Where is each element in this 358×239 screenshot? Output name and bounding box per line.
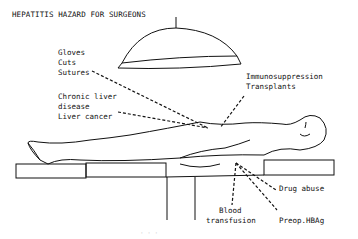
label-liver-cancer: Liver cancer	[58, 112, 112, 122]
label-sutures: Sutures	[58, 68, 90, 78]
label-transfusion: transfusion	[206, 216, 256, 226]
label-disease: disease	[58, 102, 90, 112]
label-gloves: Gloves	[58, 48, 85, 58]
faint-caption: · · ·	[140, 229, 158, 236]
label-transplants: Transplants	[246, 82, 296, 92]
surgery-illustration	[0, 0, 358, 239]
label-immunosuppression: Immunosuppression	[246, 72, 323, 82]
label-preop-hbag: Preop.HBAg	[279, 216, 324, 226]
label-chronic-liver: Chronic liver	[58, 92, 117, 102]
label-blood: Blood	[219, 206, 242, 216]
surgical-lamp-icon	[118, 17, 241, 69]
patient-figure	[28, 115, 326, 167]
label-drug-abuse: Drug abuse	[279, 184, 324, 194]
label-cuts: Cuts	[58, 58, 76, 68]
